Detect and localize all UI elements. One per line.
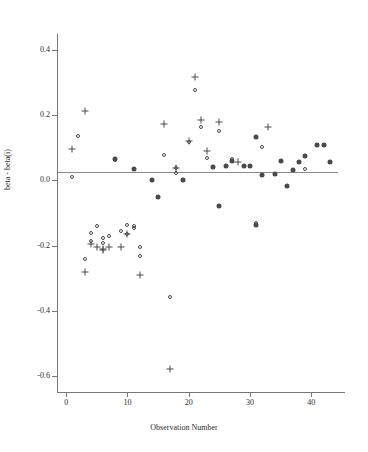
data-point-filled	[131, 166, 136, 171]
data-point-filled	[303, 153, 308, 158]
data-point-plus	[185, 137, 192, 144]
data-point-plus	[93, 244, 100, 251]
data-point-circle	[199, 125, 203, 129]
data-point-circle	[83, 257, 87, 261]
data-point-filled	[327, 159, 332, 164]
data-point-circle	[187, 140, 191, 144]
data-point-plus	[99, 246, 106, 253]
data-point-filled	[260, 173, 265, 178]
data-point-filled	[217, 204, 222, 209]
data-point-plus	[118, 244, 125, 251]
data-point-circle	[89, 239, 93, 243]
data-point-plus	[81, 268, 88, 275]
data-point-circle	[132, 224, 136, 228]
data-point-filled	[254, 134, 259, 139]
data-point-circle	[260, 145, 264, 149]
y-tick-mark	[52, 311, 57, 312]
data-point-circle	[193, 88, 197, 92]
data-point-circle	[125, 232, 129, 236]
y-tick-label: 0.0	[40, 176, 50, 184]
data-point-filled	[284, 183, 289, 188]
data-point-circle	[119, 229, 123, 233]
data-point-circle	[174, 166, 178, 170]
data-point-plus	[161, 120, 168, 127]
data-point-circle	[181, 178, 185, 182]
data-point-circle	[101, 236, 105, 240]
x-tick-mark	[250, 392, 251, 397]
data-point-plus	[87, 240, 94, 247]
y-tick-label: -0.4	[37, 307, 50, 315]
x-tick-label: 30	[246, 399, 254, 407]
data-point-plus	[99, 246, 106, 253]
x-tick-mark	[311, 392, 312, 397]
y-axis-line	[57, 34, 58, 392]
scatter-plot-figure: 0.40.20.0-0.2-0.4-0.6 010203040 beta - b…	[0, 0, 368, 452]
data-point-filled	[180, 178, 185, 183]
y-tick-label: -0.6	[37, 372, 50, 380]
x-axis-line	[57, 392, 345, 393]
data-point-circle	[125, 223, 129, 227]
data-point-filled	[297, 159, 302, 164]
data-point-circle	[205, 156, 209, 160]
data-point-plus	[173, 165, 180, 172]
y-tick-label: 0.2	[40, 111, 50, 119]
x-tick-label: 0	[64, 399, 68, 407]
data-point-plus	[167, 365, 174, 372]
data-point-circle	[230, 157, 234, 161]
x-tick-label: 20	[185, 399, 193, 407]
data-point-plus	[81, 107, 88, 114]
data-point-plus	[234, 158, 241, 165]
data-point-plus	[124, 230, 131, 237]
x-tick-label: 10	[123, 399, 131, 407]
data-point-filled	[149, 178, 154, 183]
y-tick-mark	[52, 376, 57, 377]
data-point-filled	[278, 159, 283, 164]
data-point-circle	[95, 224, 99, 228]
data-point-filled	[248, 164, 253, 169]
data-point-circle	[89, 231, 93, 235]
x-tick-mark	[127, 392, 128, 397]
data-point-filled	[223, 164, 228, 169]
data-point-filled	[156, 195, 161, 200]
data-point-circle	[254, 221, 258, 225]
data-point-circle	[132, 226, 136, 230]
x-tick-mark	[66, 392, 67, 397]
x-tick-label: 40	[307, 399, 315, 407]
data-point-circle	[138, 254, 142, 258]
data-point-filled	[211, 165, 216, 170]
y-axis-title: beta - beta(i)	[4, 149, 12, 190]
y-tick-mark	[52, 115, 57, 116]
data-point-plus	[204, 147, 211, 154]
data-point-circle	[168, 295, 172, 299]
y-tick-mark	[52, 246, 57, 247]
data-point-plus	[136, 271, 143, 278]
data-point-filled	[241, 164, 246, 169]
data-point-circle	[217, 129, 221, 133]
data-point-plus	[265, 124, 272, 131]
data-point-filled	[113, 156, 118, 161]
y-tick-mark	[52, 50, 57, 51]
data-point-plus	[191, 73, 198, 80]
x-axis-title: Observation Number	[0, 424, 368, 432]
y-tick-label: -0.2	[37, 242, 50, 250]
data-point-circle	[76, 134, 80, 138]
y-tick-label: 0.4	[40, 46, 50, 54]
data-point-circle	[113, 158, 117, 162]
data-point-circle	[107, 234, 111, 238]
data-point-circle	[138, 245, 142, 249]
data-point-filled	[229, 159, 234, 164]
data-point-filled	[315, 142, 320, 147]
zero-reference-line	[58, 172, 338, 173]
data-point-circle	[303, 167, 307, 171]
data-point-plus	[69, 145, 76, 152]
data-point-filled	[254, 222, 259, 227]
data-point-plus	[106, 243, 113, 250]
x-tick-mark	[189, 392, 190, 397]
data-point-circle	[101, 241, 105, 245]
data-point-circle	[162, 153, 166, 157]
data-point-filled	[321, 142, 326, 147]
data-point-circle	[70, 175, 74, 179]
data-point-plus	[216, 118, 223, 125]
data-point-plus	[198, 116, 205, 123]
y-tick-mark	[52, 180, 57, 181]
